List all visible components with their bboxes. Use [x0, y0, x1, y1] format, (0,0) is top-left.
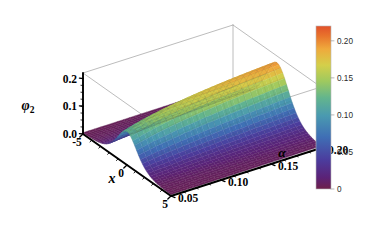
svg-text:0.10: 0.10 [228, 176, 248, 188]
svg-text:0.05: 0.05 [178, 192, 198, 204]
svg-text:0.15: 0.15 [278, 160, 298, 172]
colorbar-tick-label: 0.05 [337, 148, 353, 157]
alpha-axis-title: α [278, 145, 286, 160]
colorbar-tick-label: 0.20 [337, 37, 353, 46]
phi2-axis-title: φ2 [22, 98, 35, 115]
colorbar-tick-label: 0.10 [337, 111, 353, 120]
svg-text:0: 0 [118, 167, 124, 179]
colorbar: 0.200.150.100.050 [316, 26, 353, 194]
svg-text:0.2: 0.2 [63, 73, 78, 85]
colorbar-tick-label: 0 [337, 185, 342, 194]
surface-plot-figure: -5050.050.100.150.200.00.10.2 xαφ2 0.200… [0, 0, 367, 226]
x-axis-title: x [108, 171, 116, 186]
svg-text:5: 5 [162, 198, 168, 210]
svg-text:0.0: 0.0 [63, 128, 78, 140]
colorbar-swatch [316, 26, 331, 189]
surface-plot-canvas: -5050.050.100.150.200.00.10.2 xαφ2 0.200… [0, 0, 367, 226]
svg-text:0.1: 0.1 [63, 100, 78, 112]
colorbar-tick-labels: 0.200.150.100.050 [331, 37, 353, 194]
colorbar-tick-label: 0.15 [337, 74, 353, 83]
